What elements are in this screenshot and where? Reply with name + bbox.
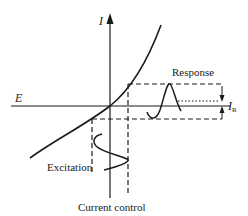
excitation-waveform (94, 134, 128, 170)
response-label: Response (172, 67, 214, 78)
excitation-label: Excitation (47, 162, 92, 173)
current-control-diagram: I E Response IR Excitation Current contr… (0, 0, 248, 216)
e-axis-label: E (15, 92, 22, 104)
ir-down-arrow-icon (220, 95, 225, 102)
i-axis-label: I (99, 15, 103, 27)
ir-label-subscript: R (232, 106, 237, 114)
ir-up-arrow-icon (220, 106, 225, 113)
i-axis-arrow-icon (107, 13, 114, 24)
response-waveform (147, 84, 181, 118)
diagram-graphics (0, 0, 248, 216)
diagram-caption: Current control (78, 202, 146, 213)
ir-label: IR (228, 100, 237, 114)
